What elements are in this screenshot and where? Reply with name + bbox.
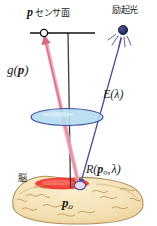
excitation-light-label: 励起光 [112,6,138,15]
excitation-spectrum-label: E(λ) [103,88,124,100]
object-point-marker [74,181,85,189]
reflectance-label: R(po, λ) [86,163,121,177]
object-point-subscript: o [69,201,73,211]
lens-highlight [42,112,74,117]
excitation-light-source-group [108,25,131,47]
close-paren-icon: ) [120,87,124,101]
brain-label: 脳 [18,174,27,183]
sensor-plane-label: pセンサ面 [27,6,70,18]
sensor-point-symbol: p [27,5,33,19]
emission-function-label: g(p) [7,63,29,76]
close-paren-icon: ) [24,62,28,77]
sensor-point-marker [40,29,47,36]
optical-sensing-diagram: pセンサ面 励起光 g(p) E(λ) R(po, λ) 脳 po [0,0,157,226]
lens-group [31,109,103,126]
object-point-label: po [62,196,73,211]
emission-ray-secondary [62,120,80,186]
diagram-canvas [0,0,157,226]
lens-ellipse [31,109,103,126]
close-paren-icon: ) [117,162,121,176]
excitation-light-source [118,25,127,34]
sensor-plane-group [30,29,95,36]
sensor-plane-text: センサ面 [35,8,70,18]
